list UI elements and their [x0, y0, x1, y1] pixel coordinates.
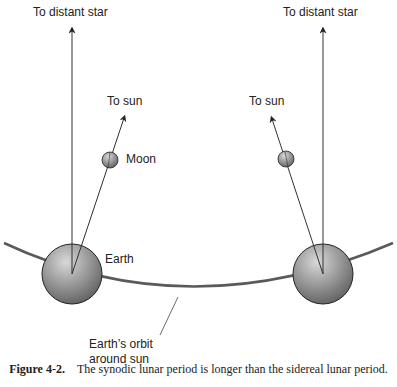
sun-arrow-left — [72, 118, 124, 274]
sun-arrow-right — [272, 119, 323, 274]
label-star-right: To distant star — [283, 5, 358, 19]
synodic-period-diagram — [0, 0, 397, 387]
moon-right — [278, 151, 294, 167]
label-moon: Moon — [126, 152, 156, 166]
label-earth: Earth — [105, 252, 134, 266]
label-sun-right: To sun — [249, 94, 284, 108]
figure-number: Figure 4-2. — [9, 362, 65, 376]
label-sun-left: To sun — [107, 94, 142, 108]
orbit-leader-line — [160, 297, 178, 335]
label-orbit-line1: Earth’s orbit — [89, 337, 153, 351]
figure-caption-text: The synodic lunar period is longer than … — [77, 362, 388, 376]
label-star-left: To distant star — [33, 5, 108, 19]
figure-caption: Figure 4-2.The synodic lunar period is l… — [0, 362, 397, 377]
